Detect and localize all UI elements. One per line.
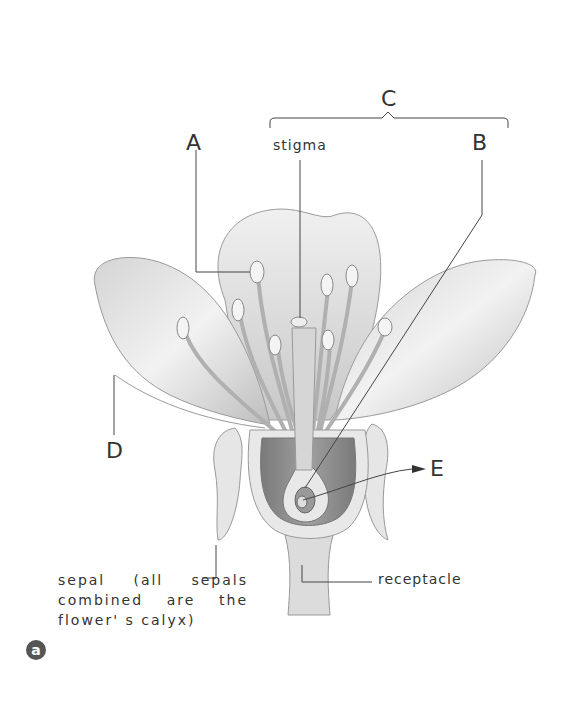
arrow-E [412,465,426,473]
left-sepal [214,428,242,540]
receptacle-stalk [285,535,333,615]
label-D: D [106,438,123,463]
label-E: E [430,456,444,481]
label-B: B [472,130,487,155]
bracket-C [270,112,508,128]
label-C: C [381,86,396,111]
panel-badge: a [26,640,46,660]
label-stigma: stigma [273,137,327,153]
label-sepal: sepal (all sepals combined are the flowe… [58,570,248,630]
stigma-tip [291,317,307,327]
label-receptacle: receptacle [378,571,462,587]
style [292,328,316,470]
label-A: A [186,130,201,155]
